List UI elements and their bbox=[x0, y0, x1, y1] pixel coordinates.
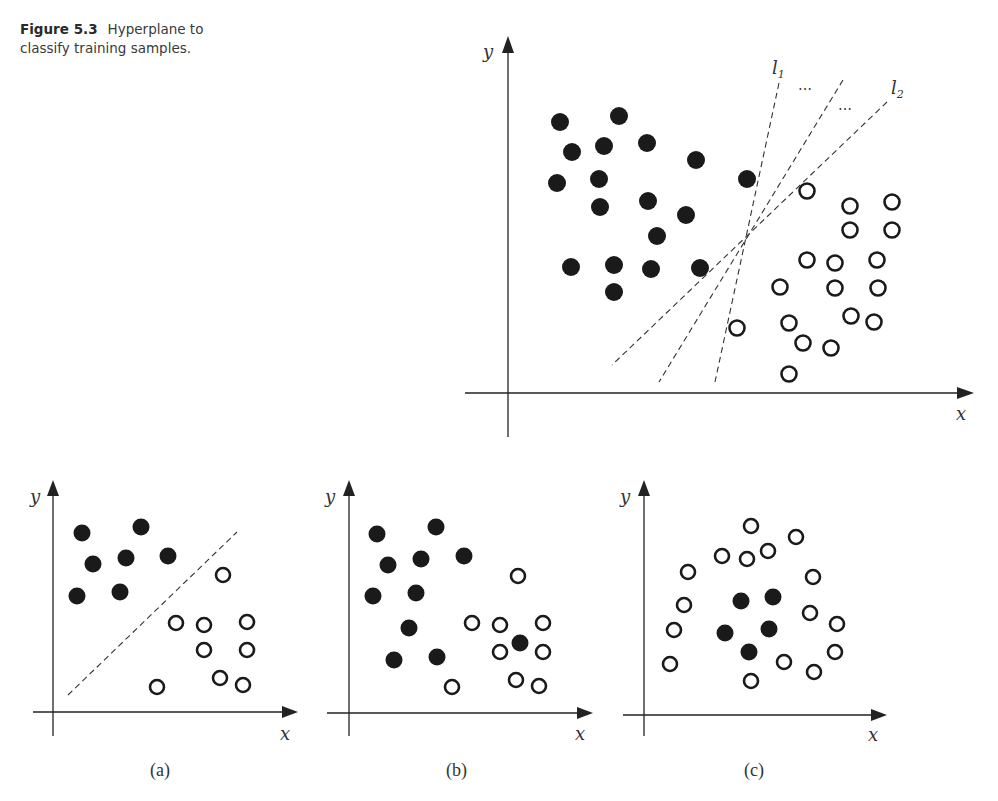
open-point bbox=[828, 645, 842, 659]
panel-label-b: (b) bbox=[446, 760, 467, 781]
plot-c-points bbox=[663, 519, 844, 688]
filled-point bbox=[160, 548, 177, 565]
filled-point bbox=[639, 192, 657, 210]
open-point bbox=[493, 618, 507, 632]
filled-point bbox=[386, 652, 403, 669]
filled-point bbox=[408, 585, 425, 602]
open-point bbox=[871, 281, 886, 296]
y-axis-label: y bbox=[619, 486, 631, 507]
filled-point bbox=[118, 550, 135, 567]
open-point bbox=[773, 280, 788, 295]
filled-point bbox=[687, 151, 705, 169]
open-point bbox=[824, 341, 839, 356]
y-axis-label: y bbox=[324, 486, 336, 507]
filled-point bbox=[761, 621, 778, 638]
ellipsis-1: ⋯ bbox=[798, 81, 812, 97]
filled-point bbox=[413, 551, 430, 568]
ellipsis-2: ⋯ bbox=[838, 101, 852, 117]
open-point bbox=[806, 570, 820, 584]
open-point bbox=[465, 616, 479, 630]
open-point bbox=[867, 315, 882, 330]
open-point bbox=[681, 565, 695, 579]
open-point bbox=[789, 530, 803, 544]
filled-point bbox=[691, 259, 709, 277]
x-axis-label: x bbox=[956, 403, 966, 424]
open-point bbox=[536, 645, 550, 659]
filled-point bbox=[548, 174, 566, 192]
filled-point bbox=[717, 625, 734, 642]
open-point bbox=[885, 223, 900, 238]
open-point bbox=[744, 519, 758, 533]
open-point bbox=[493, 645, 507, 659]
panel-label-a: (a) bbox=[150, 760, 170, 781]
open-point bbox=[667, 623, 681, 637]
open-point bbox=[807, 665, 821, 679]
open-point bbox=[761, 544, 775, 558]
plot-a: y x (a) bbox=[29, 480, 298, 781]
x-axis-label: x bbox=[280, 723, 290, 744]
filled-point bbox=[74, 525, 91, 542]
open-point bbox=[828, 281, 843, 296]
filled-point bbox=[112, 584, 129, 601]
filled-point bbox=[605, 256, 623, 274]
l2-label: l2 bbox=[891, 77, 904, 101]
filled-point bbox=[133, 519, 150, 536]
filled-point bbox=[648, 227, 666, 245]
open-point bbox=[677, 598, 691, 612]
filled-point bbox=[456, 548, 473, 565]
open-point bbox=[800, 253, 815, 268]
open-point bbox=[197, 643, 211, 657]
filled-point bbox=[365, 588, 382, 605]
open-point bbox=[843, 199, 858, 214]
dashed-line-middle bbox=[659, 80, 843, 382]
open-point bbox=[740, 552, 754, 566]
open-point bbox=[715, 549, 729, 563]
filled-point bbox=[610, 107, 628, 125]
filled-point bbox=[605, 283, 623, 301]
filled-point bbox=[590, 170, 608, 188]
filled-point bbox=[765, 589, 782, 606]
filled-point bbox=[85, 556, 102, 573]
filled-point bbox=[429, 649, 446, 666]
panel-label-c: (c) bbox=[744, 760, 764, 781]
x-axis-label: x bbox=[868, 724, 878, 745]
filled-point bbox=[563, 143, 581, 161]
x-axis-arrow-icon bbox=[282, 706, 298, 718]
open-point bbox=[782, 367, 797, 382]
open-point bbox=[169, 616, 183, 630]
filled-point bbox=[551, 113, 569, 131]
y-axis-arrow-icon bbox=[502, 36, 514, 53]
open-point bbox=[885, 195, 900, 210]
figure-canvas: y x l1 l2 ⋯ ⋯ y x (a) y x (b) y x bbox=[0, 0, 998, 801]
x-axis-arrow-icon bbox=[577, 707, 593, 719]
open-point bbox=[843, 223, 858, 238]
open-point bbox=[782, 316, 797, 331]
plot-a-points bbox=[69, 519, 255, 695]
filled-point bbox=[595, 137, 613, 155]
filled-point bbox=[677, 206, 695, 224]
open-point bbox=[197, 618, 211, 632]
filled-point bbox=[380, 557, 397, 574]
open-point bbox=[150, 680, 164, 694]
filled-point bbox=[738, 170, 756, 188]
filled-point bbox=[638, 134, 656, 152]
open-point bbox=[828, 256, 843, 271]
open-point bbox=[532, 679, 546, 693]
open-point bbox=[796, 336, 811, 351]
open-point bbox=[777, 655, 791, 669]
y-axis-arrow-icon bbox=[47, 480, 59, 496]
plot-b: y x (b) bbox=[324, 480, 593, 781]
plot-c: y x (c) bbox=[619, 480, 887, 781]
open-point bbox=[216, 568, 230, 582]
open-point bbox=[236, 678, 250, 692]
open-point bbox=[240, 615, 254, 629]
open-point bbox=[800, 184, 815, 199]
dashed-line-l1 bbox=[715, 83, 779, 382]
open-point bbox=[830, 617, 844, 631]
open-point bbox=[730, 321, 745, 336]
filled-point bbox=[512, 635, 529, 652]
open-point bbox=[511, 569, 525, 583]
filled-point bbox=[741, 644, 758, 661]
y-axis-label: y bbox=[29, 486, 41, 507]
y-axis-arrow-icon bbox=[343, 480, 355, 496]
